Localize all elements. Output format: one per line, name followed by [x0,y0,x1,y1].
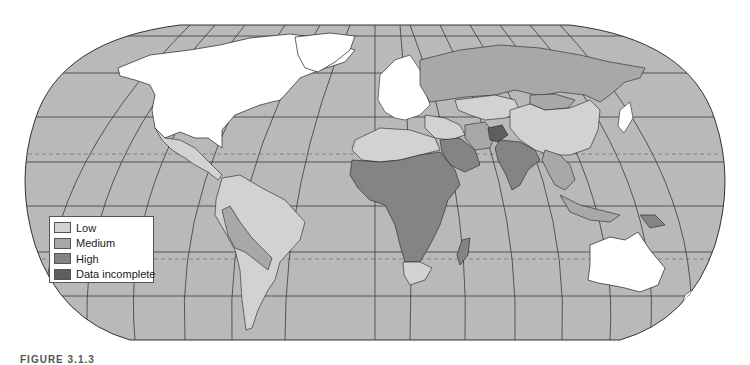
legend-swatch-high [54,253,71,264]
legend-item-data-incomplete: Data incomplete [54,267,149,283]
legend-swatch-data-incomplete [54,269,71,280]
map-legend: Low Medium High Data incomplete [49,216,154,283]
legend-label: High [76,253,99,265]
legend-swatch-medium [54,238,71,249]
legend-label: Data incomplete [76,268,156,280]
figure-caption: FIGURE 3.1.3 [20,354,95,365]
legend-label: Low [76,222,96,234]
legend-item-low: Low [54,220,149,236]
legend-swatch-low [54,222,71,233]
legend-label: Medium [76,237,115,249]
legend-item-high: High [54,251,149,267]
legend-item-medium: Medium [54,236,149,252]
